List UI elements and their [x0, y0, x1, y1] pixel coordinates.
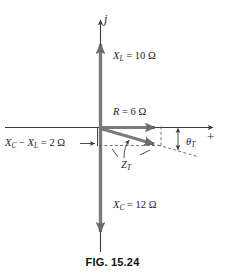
label-capacitive-reactance: XC = 12 Ω	[113, 200, 157, 211]
axis-group	[5, 20, 213, 252]
label-net-reactance: XC − XL = 2 Ω	[5, 138, 65, 149]
xc-value: 12	[136, 199, 147, 210]
zt-leader-line	[124, 140, 130, 158]
zt-leader-tail	[112, 149, 118, 157]
label-inductive-reactance: XL = 10 Ω	[113, 51, 156, 62]
real-axis-label: +	[207, 130, 214, 143]
zt-subscript: T	[127, 163, 131, 172]
imaginary-axis-label: j	[104, 13, 107, 25]
figure-caption: FIG. 15.24	[0, 256, 225, 268]
netx-unit: Ω	[57, 137, 65, 148]
label-phase-angle: θT	[186, 137, 195, 148]
zt-leader-right-tail	[140, 150, 150, 155]
label-total-impedance: ZT	[121, 160, 131, 171]
xl-value: 10	[135, 50, 146, 61]
theta-subscript: T	[191, 140, 195, 149]
label-resistance: R = 6 Ω	[113, 107, 146, 118]
vector-zt	[101, 129, 155, 145]
xc-unit: Ω	[149, 199, 157, 210]
r-unit: Ω	[138, 106, 146, 117]
net-reactance-dimension	[80, 127, 98, 146]
xl-unit: Ω	[148, 50, 156, 61]
figure-container: j + XL = 10 Ω R = 6 Ω XC − XL = 2 Ω XC =…	[0, 0, 225, 276]
